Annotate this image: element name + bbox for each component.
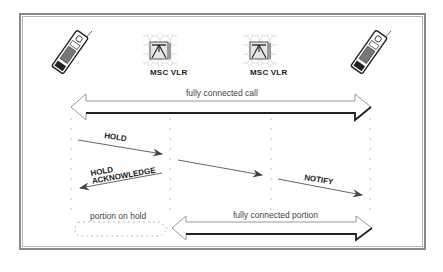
mobile-phone-icon xyxy=(52,23,93,74)
mobile-phone-icon xyxy=(351,23,392,74)
fully-connected-portion-label: fully connected portion xyxy=(233,210,318,220)
msc-to-msc-arrow xyxy=(178,160,262,175)
portion-on-hold-label: portion on hold xyxy=(90,211,146,221)
msc-vlr-1-label: MSC VLR xyxy=(150,68,187,77)
portion-on-hold-box xyxy=(74,222,168,236)
diagram-canvas xyxy=(0,0,443,272)
fully-connected-call-label: fully connected call xyxy=(186,88,258,98)
msc-vlr-icon xyxy=(143,34,177,66)
msc-vlr-2-label: MSC VLR xyxy=(250,68,287,77)
msc-vlr-icon xyxy=(243,34,277,66)
